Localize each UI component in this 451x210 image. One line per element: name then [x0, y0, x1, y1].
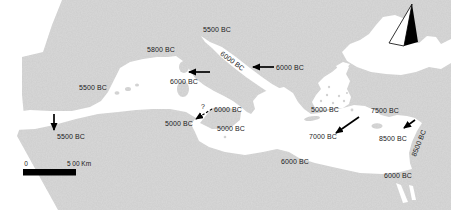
label-anatolia: 7500 BC	[371, 107, 399, 114]
label-libya: 6000 BC	[281, 158, 309, 165]
label-greece: 5000 BC	[311, 106, 339, 113]
question-mark: ?	[201, 103, 205, 110]
mediterranean-map: 5500 BC5800 BC6000 BC6000 BC6000 BC6000 …	[0, 0, 451, 210]
island-balearic-2	[125, 87, 131, 91]
island-malta	[224, 136, 227, 139]
label-iberia: 5500 BC	[79, 84, 107, 91]
label-south-france: 5800 BC	[147, 46, 175, 53]
map-figure: 5500 BC5800 BC6000 BC6000 BC6000 BC6000 …	[0, 0, 451, 210]
island-balearic-3	[135, 84, 139, 87]
label-north-adriatic: 5500 BC	[203, 26, 231, 33]
label-balkans: 6000 BC	[276, 64, 304, 71]
label-egypt: 6000 BC	[384, 172, 412, 179]
scale-bar	[23, 169, 76, 176]
scale-zero-label: 0	[24, 160, 28, 167]
island-cyprus	[372, 123, 383, 129]
island-corsica	[179, 61, 189, 73]
label-corsica: 6000 BC	[170, 78, 198, 85]
island-balearic-1	[115, 91, 120, 95]
label-east-aegean: 7000 BC	[309, 133, 337, 140]
scale-distance-label: 5 00 Km	[67, 160, 91, 167]
label-sicily-south: 5000 BC	[217, 125, 245, 132]
label-tyrrhenian: 6000 BC	[214, 106, 242, 113]
label-morocco: 5500 BC	[57, 133, 85, 140]
label-sicily-west: 5000 BC	[165, 120, 193, 127]
label-cyprus-sea: 8500 BC	[379, 135, 407, 142]
